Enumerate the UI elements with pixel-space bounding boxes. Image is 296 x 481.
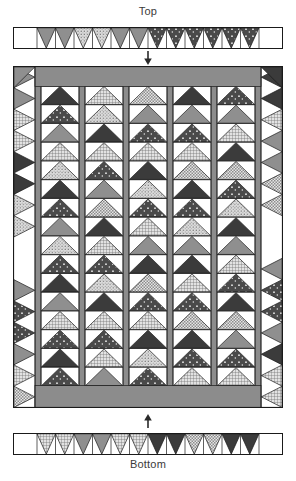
top-border-strip bbox=[13, 27, 283, 49]
bottom-border-strip bbox=[13, 433, 283, 455]
bottom-sashing-band bbox=[35, 386, 261, 408]
page-title-bottom: Bottom bbox=[0, 458, 296, 470]
page-title-top: Top bbox=[0, 5, 296, 17]
down-arrow-icon bbox=[0, 51, 296, 65]
up-arrow-icon bbox=[0, 414, 296, 428]
quilt-body bbox=[13, 66, 283, 408]
top-sashing-band bbox=[35, 67, 261, 87]
